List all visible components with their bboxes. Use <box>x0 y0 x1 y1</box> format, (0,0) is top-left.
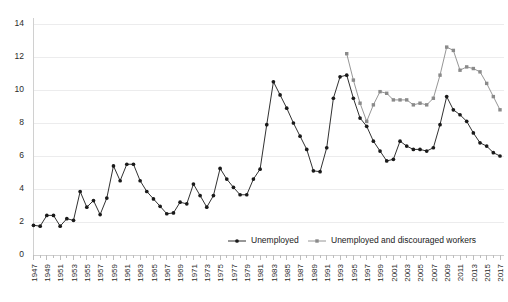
discouraged-point <box>498 108 501 111</box>
chart-legend: UnemployedUnemployed and discouraged wor… <box>228 235 476 245</box>
series-unemployed <box>32 73 502 228</box>
x-tick-label: 1965 <box>150 263 159 281</box>
unemployed-point <box>132 162 136 166</box>
x-tick-label: 1961 <box>123 263 132 281</box>
unemployed-point <box>452 108 456 112</box>
unemployed-point <box>32 223 36 227</box>
discouraged-point <box>385 92 388 95</box>
y-tick-label: 12 <box>15 51 25 61</box>
discouraged-point <box>445 45 448 48</box>
unemployed-point <box>138 179 142 183</box>
unemployed-point <box>365 124 369 128</box>
unemployed-point <box>332 96 336 100</box>
unemployed-point <box>385 159 389 163</box>
unemployed-point <box>118 179 122 183</box>
unemployed-point <box>305 148 309 152</box>
discouraged-point <box>432 97 435 100</box>
unemployed-point <box>218 167 222 171</box>
unemployed-point <box>372 139 376 143</box>
unemployed-point <box>358 116 362 120</box>
unemployed-point <box>265 123 269 127</box>
y-tick-label: 4 <box>19 183 24 193</box>
x-tick-label: 2001 <box>390 263 399 281</box>
unemployed-point <box>58 224 62 228</box>
unemployed-point <box>52 214 56 218</box>
legend-label: Unemployed and discouraged workers <box>331 235 476 245</box>
x-tick-label: 1987 <box>296 263 305 281</box>
unemployed-point <box>325 146 329 150</box>
unemployed-point <box>165 212 169 216</box>
y-axis-labels-group: 02468101214 <box>15 18 25 259</box>
unemployed-point <box>45 214 49 218</box>
discouraged-point <box>465 65 468 68</box>
discouraged-point <box>418 102 421 105</box>
x-tick-label: 2013 <box>470 263 479 281</box>
legend-label: Unemployed <box>251 235 299 245</box>
unemployed-point <box>98 213 102 217</box>
discouraged-point <box>345 52 348 55</box>
discouraged-point <box>378 90 381 93</box>
discouraged-point <box>472 67 475 70</box>
unemployed-point <box>245 193 249 197</box>
x-tick-label: 1973 <box>203 263 212 281</box>
unemployed-point <box>145 190 149 194</box>
unemployed-line <box>34 75 501 226</box>
x-tick-label: 1947 <box>30 263 39 281</box>
unemployed-point <box>352 96 356 100</box>
x-tick-label: 1993 <box>336 263 345 281</box>
discouraged-point <box>372 103 375 106</box>
legend-swatch-marker <box>235 239 239 243</box>
unemployed-point <box>465 120 469 124</box>
unemployed-point <box>445 95 449 99</box>
unemployed-point <box>72 219 76 223</box>
discouraged-point <box>405 98 408 101</box>
y-tick-label: 8 <box>19 117 24 127</box>
discouraged-point <box>492 95 495 98</box>
unemployed-point <box>438 123 442 127</box>
y-tick-label: 6 <box>19 150 24 160</box>
x-tick-label: 1967 <box>163 263 172 281</box>
unemployed-point <box>85 205 89 209</box>
unemployed-point <box>185 202 189 206</box>
x-tick-label: 1977 <box>230 263 239 281</box>
discouraged-point <box>392 98 395 101</box>
x-tick-label: 1995 <box>350 263 359 281</box>
unemployed-point <box>205 205 209 209</box>
x-tick-label: 2017 <box>496 263 505 281</box>
x-tick-label: 2003 <box>403 263 412 281</box>
x-tick-label: 1971 <box>190 263 199 281</box>
unemployed-point <box>398 139 402 143</box>
unemployed-point <box>491 151 495 155</box>
discouraged-point <box>412 103 415 106</box>
unemployed-point <box>112 164 116 168</box>
unemployed-point <box>338 75 342 79</box>
unemployed-point <box>471 131 475 135</box>
unemployed-point <box>212 194 216 198</box>
x-tick-label: 1983 <box>270 263 279 281</box>
x-tick-label: 1955 <box>83 263 92 281</box>
unemployed-point <box>285 106 289 110</box>
discouraged-point <box>425 103 428 106</box>
unemployed-point <box>458 113 462 117</box>
unemployed-point <box>38 224 42 228</box>
chart-svg: 02468101214 1947194919511953195519571959… <box>0 0 508 302</box>
discouraged-point <box>452 49 455 52</box>
unemployed-point <box>278 93 282 97</box>
x-tick-label: 2011 <box>456 263 465 281</box>
unemployed-point <box>178 200 182 204</box>
unemployed-point <box>65 217 69 221</box>
x-tick-label: 1989 <box>310 263 319 281</box>
unemployed-point <box>498 154 502 158</box>
unemployed-point <box>258 167 262 171</box>
unemployed-point <box>105 196 109 200</box>
x-tick-label: 2009 <box>443 263 452 281</box>
unemployed-point <box>412 148 416 152</box>
unemployed-point <box>378 149 382 153</box>
x-axis-group <box>34 18 505 260</box>
x-tick-label: 1951 <box>56 263 65 281</box>
unemployed-point <box>298 134 302 138</box>
discouraged-point <box>352 78 355 81</box>
unemployed-point <box>92 199 96 203</box>
unemployed-point <box>405 144 409 148</box>
discouraged-point <box>358 102 361 105</box>
